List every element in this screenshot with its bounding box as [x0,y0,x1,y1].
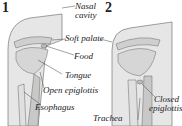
label-nasal-line2: cavity [75,11,97,20]
label-food: Food [74,52,93,61]
panel-number-1: 1 [2,0,9,16]
label-open-epiglottis: Open epiglottis [43,86,98,95]
panel-number-2: 2 [105,0,112,16]
label-soft-palate: Soft palate [65,34,104,43]
label-tongue: Tongue [65,71,91,80]
label-closed-line2: epiglottis [149,104,182,113]
label-esophagus: Esophagus [35,103,75,112]
label-trachea: Trachea [93,114,123,123]
